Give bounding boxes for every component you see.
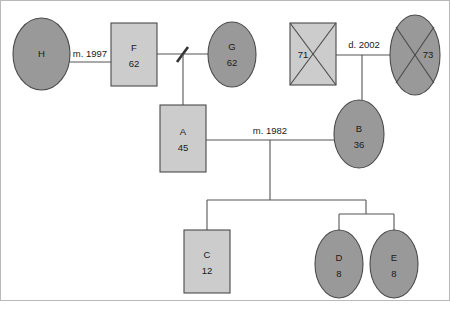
person-node-71[interactable]: 71 <box>290 23 336 85</box>
person-name-f: F <box>131 42 137 53</box>
person-node-e[interactable]: E 8 <box>370 230 418 298</box>
person-age-71: 71 <box>298 49 309 60</box>
person-age-f: 62 <box>129 58 140 69</box>
relationship-label-m1982: m. 1982 <box>253 125 287 136</box>
male-rect-c[interactable] <box>184 230 230 293</box>
person-age-g: 62 <box>227 57 238 68</box>
person-name-d: D <box>336 252 343 263</box>
person-node-h[interactable]: H <box>13 18 70 90</box>
person-name-g: G <box>228 41 235 52</box>
male-rect-a[interactable] <box>160 105 206 172</box>
person-name-b: B <box>356 123 362 134</box>
relationship-label-m1997: m. 1997 <box>73 48 107 59</box>
person-node-g[interactable]: G 62 <box>208 22 256 87</box>
male-rect-f[interactable] <box>111 23 157 86</box>
person-name-e: E <box>391 252 397 263</box>
person-node-b[interactable]: B 36 <box>334 100 384 168</box>
person-node-73[interactable]: 73 <box>390 15 440 95</box>
person-age-c: 12 <box>202 265 213 276</box>
person-node-c[interactable]: C 12 <box>184 230 230 293</box>
relationship-label-d2002: d. 2002 <box>348 39 380 50</box>
person-node-d[interactable]: D 8 <box>315 230 363 298</box>
person-name-a: A <box>180 126 187 137</box>
genogram-svg: H F 62 G 62 71 73 <box>0 0 450 309</box>
person-node-a[interactable]: A 45 <box>160 105 206 172</box>
person-age-e: 8 <box>391 268 396 279</box>
person-age-d: 8 <box>336 268 341 279</box>
person-age-b: 36 <box>354 139 365 150</box>
female-ellipse-e[interactable] <box>370 230 418 298</box>
person-name-h: H <box>38 48 45 59</box>
genogram-canvas: H F 62 G 62 71 73 <box>0 0 450 309</box>
female-ellipse-d[interactable] <box>315 230 363 298</box>
person-node-f[interactable]: F 62 <box>111 23 157 86</box>
female-ellipse-b[interactable] <box>334 100 384 168</box>
person-name-c: C <box>204 249 211 260</box>
female-ellipse-g[interactable] <box>208 22 256 87</box>
person-age-73: 73 <box>423 49 434 60</box>
person-age-a: 45 <box>178 142 189 153</box>
